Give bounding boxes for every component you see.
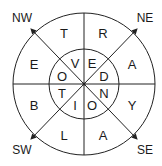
letter-wheel-diagram: NW NE SW SE T R A Y A L B E V E D N O I …: [0, 0, 162, 166]
outer-letter-bottom-left: L: [60, 128, 67, 143]
outer-letter-right-lower: Y: [128, 98, 137, 113]
direction-sw: SW: [12, 143, 32, 157]
inner-letter-top-left: V: [71, 56, 80, 71]
outer-letter-right-upper: A: [128, 57, 137, 72]
outer-letter-bottom-right: A: [99, 128, 108, 143]
outer-letter-left-upper: E: [30, 57, 39, 72]
inner-letter-left-upper: O: [57, 69, 67, 84]
inner-letter-right-upper: D: [99, 69, 108, 84]
direction-ne: NE: [137, 11, 154, 25]
outer-letter-left-lower: B: [30, 98, 39, 113]
inner-letter-top-right: E: [88, 56, 97, 71]
direction-se: SE: [137, 143, 153, 157]
inner-letter-bottom-right: O: [87, 98, 97, 113]
center-dot: [83, 83, 86, 86]
inner-letter-left-lower: T: [58, 86, 66, 101]
direction-nw: NW: [12, 11, 33, 25]
outer-letter-top-left: T: [60, 26, 68, 41]
inner-letter-right-lower: N: [99, 86, 108, 101]
inner-letter-bottom-left: I: [73, 98, 77, 113]
outer-letter-top-right: R: [98, 26, 107, 41]
